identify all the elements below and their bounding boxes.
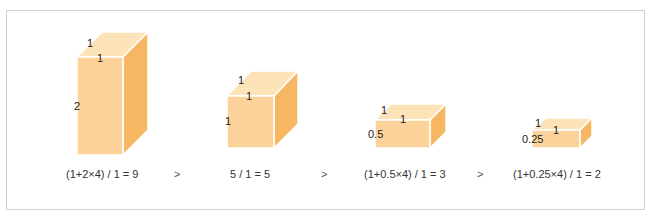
box-2-front-face bbox=[227, 96, 274, 148]
box-4-label-width: 1 bbox=[553, 124, 559, 136]
box-3-label-width: 1 bbox=[400, 113, 406, 125]
box-2-label-depth: 1 bbox=[238, 74, 244, 86]
box-2-label-height: 1 bbox=[225, 115, 231, 127]
box-1-label-width: 1 bbox=[97, 52, 103, 64]
box-2-formula: 5 / 1 = 5 bbox=[230, 168, 270, 180]
box-4-label-depth: 1 bbox=[535, 117, 541, 129]
box-1: 1 1 2 bbox=[74, 32, 148, 155]
box-3-formula: (1+0.5×4) / 1 = 3 bbox=[364, 168, 446, 180]
box-3-label-depth: 1 bbox=[381, 104, 387, 116]
box-4-formula: (1+0.25×4) / 1 = 2 bbox=[513, 168, 601, 180]
box-1-label-height: 2 bbox=[74, 100, 80, 112]
box-2-label-width: 1 bbox=[246, 90, 252, 102]
box-1-label-depth: 1 bbox=[87, 37, 93, 49]
box-1-formula: (1+2×4) / 1 = 9 bbox=[66, 168, 138, 180]
box-3-label-height: 0.5 bbox=[368, 128, 383, 140]
box-3: 1 1 0.5 bbox=[368, 104, 446, 148]
comparator-2: > bbox=[321, 168, 327, 180]
comparator-3: > bbox=[477, 168, 483, 180]
comparator-1: > bbox=[174, 168, 180, 180]
box-comparison-diagram: 1 1 2 (1+2×4) / 1 = 9 > 1 1 1 5 / 1 = 5 … bbox=[0, 0, 651, 218]
box-4-label-height: 0.25 bbox=[522, 133, 543, 145]
box-4: 1 1 0.25 bbox=[522, 117, 592, 148]
box-2: 1 1 1 bbox=[225, 71, 298, 148]
box-1-front-face bbox=[77, 57, 123, 155]
